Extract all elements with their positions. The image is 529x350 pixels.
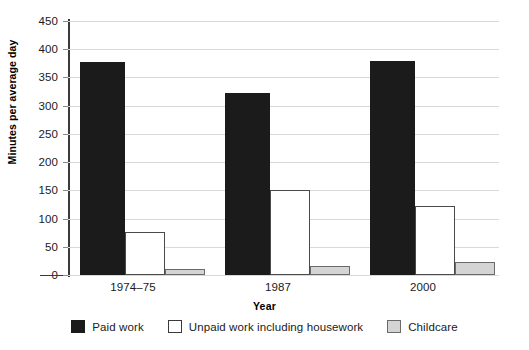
legend-item-paid-work[interactable]: Paid work <box>71 320 143 333</box>
bar-group-1987 <box>225 21 355 275</box>
x-tick-label-1974-75: 1974–75 <box>78 281 188 293</box>
plot-area <box>68 21 499 275</box>
legend-item-childcare[interactable]: Childcare <box>387 320 457 333</box>
legend-item-unpaid-work[interactable]: Unpaid work including housework <box>168 320 363 333</box>
x-axis-title: Year <box>0 300 529 312</box>
gridline-0 <box>68 275 499 276</box>
y-tick-label: 100 <box>0 213 58 225</box>
bar-childcare-2000[interactable] <box>455 262 495 275</box>
bar-unpaid-work-2000[interactable] <box>415 206 455 275</box>
bar-paid-work-1987[interactable] <box>225 93 270 275</box>
bar-group-2000 <box>370 21 500 275</box>
chart-legend: Paid work Unpaid work including housewor… <box>0 320 529 333</box>
bar-chart: 450 400 350 300 250 200 150 100 50 0 Min… <box>0 0 529 350</box>
legend-swatch-unpaid-work-icon <box>168 320 182 333</box>
bar-childcare-1987[interactable] <box>310 266 350 275</box>
bar-unpaid-work-1987[interactable] <box>270 190 310 275</box>
y-axis-title: Minutes per average day <box>6 2 18 202</box>
bar-childcare-1974-75[interactable] <box>165 269 205 275</box>
legend-label-paid-work: Paid work <box>92 321 143 333</box>
bar-group-1974-75 <box>80 21 210 275</box>
bar-paid-work-1974-75[interactable] <box>80 62 125 275</box>
legend-swatch-childcare-icon <box>387 320 401 333</box>
bar-unpaid-work-1974-75[interactable] <box>125 232 165 275</box>
legend-label-unpaid-work: Unpaid work including housework <box>189 321 363 333</box>
x-tick-label-1987: 1987 <box>223 281 333 293</box>
y-tick-label: 50 <box>0 241 58 253</box>
legend-swatch-paid-work-icon <box>71 320 85 333</box>
bar-paid-work-2000[interactable] <box>370 61 415 275</box>
x-tick-label-2000: 2000 <box>368 281 478 293</box>
legend-label-childcare: Childcare <box>408 321 457 333</box>
